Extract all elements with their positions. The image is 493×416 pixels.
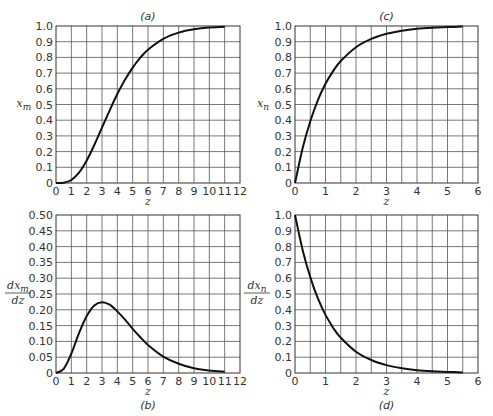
y-tick-label: 0.5 <box>36 99 54 112</box>
data-curve <box>56 302 225 373</box>
x-tick-label: 5 <box>129 375 136 388</box>
x-tick-label: 5 <box>444 185 451 198</box>
y-tick-label: 0.7 <box>36 67 54 80</box>
x-tick-label: 10 <box>202 375 216 388</box>
y-tick-label: 0.20 <box>29 304 54 317</box>
panel-title: (d) <box>379 399 395 412</box>
x-tick-label: 8 <box>175 375 182 388</box>
y-tick-label: 0.3 <box>275 130 293 143</box>
panel-c: 00.10.20.30.40.50.60.70.80.91.00123456z(… <box>257 10 482 208</box>
x-axis-label: z <box>383 195 390 208</box>
x-tick-label: 2 <box>83 375 90 388</box>
y-tick-label: 0.6 <box>36 83 54 96</box>
y-tick-label: 0.4 <box>275 114 293 127</box>
y-tick-label: 0.5 <box>275 288 293 301</box>
svg-text:dxm: dxm <box>7 279 29 294</box>
x-tick-label: 12 <box>233 375 247 388</box>
y-axis-label: dxmdz <box>5 279 31 307</box>
x-axis-label: z <box>144 195 151 208</box>
x-tick-label: 8 <box>175 185 182 198</box>
y-tick-labels: 00.050.100.150.200.250.300.350.400.450.5… <box>29 209 54 380</box>
y-tick-label: 0.3 <box>36 130 54 143</box>
x-tick-label: 1 <box>322 375 329 388</box>
x-tick-label: 2 <box>83 185 90 198</box>
y-tick-labels: 00.10.20.30.40.50.60.70.80.91.0 <box>275 209 293 380</box>
panel-a: 00.10.20.30.40.50.60.70.80.91.0012345678… <box>17 10 247 208</box>
svg-text:dxn: dxn <box>247 279 266 294</box>
x-tick-label: 6 <box>475 185 482 198</box>
y-tick-label: 0.50 <box>29 209 54 222</box>
figure: 00.10.20.30.40.50.60.70.80.91.0012345678… <box>0 0 493 416</box>
x-axis-label: z <box>383 385 390 398</box>
y-tick-labels: 00.10.20.30.40.50.60.70.80.91.0 <box>36 20 54 190</box>
grid <box>56 215 240 373</box>
x-tick-label: 3 <box>99 185 106 198</box>
y-tick-label: 0.9 <box>36 36 54 49</box>
y-tick-label: 0.8 <box>275 51 293 64</box>
x-tick-label: 12 <box>233 185 247 198</box>
x-tick-label: 3 <box>99 375 106 388</box>
panel-b: 00.050.100.150.200.250.300.350.400.450.5… <box>5 209 247 412</box>
y-axis-label: xm <box>17 97 32 112</box>
y-tick-label: 0.2 <box>36 146 54 159</box>
y-tick-label: 1.0 <box>275 209 293 222</box>
panel-title: (c) <box>379 10 394 23</box>
y-tick-label: 0.4 <box>36 114 54 127</box>
x-tick-label: 6 <box>475 375 482 388</box>
x-tick-label: 4 <box>114 375 121 388</box>
y-tick-label: 0.8 <box>36 51 54 64</box>
x-tick-label: 2 <box>353 375 360 388</box>
x-tick-label: 0 <box>53 375 60 388</box>
y-tick-label: 0.45 <box>29 225 54 238</box>
y-tick-label: 1.0 <box>275 20 293 33</box>
y-axis-label: dxndz <box>244 279 270 307</box>
y-tick-label: 0.4 <box>275 304 293 317</box>
y-tick-label: 0.35 <box>29 256 54 269</box>
y-tick-label: 0.9 <box>275 36 293 49</box>
y-tick-label: 0.10 <box>29 335 54 348</box>
panel-d: 00.10.20.30.40.50.60.70.80.91.00123456z(… <box>244 209 482 412</box>
y-tick-label: 0.2 <box>275 335 293 348</box>
x-tick-label: 0 <box>292 185 299 198</box>
y-tick-label: 0.30 <box>29 272 54 285</box>
x-tick-label: 11 <box>218 375 232 388</box>
svg-text:dz: dz <box>251 294 264 307</box>
svg-text:xn: xn <box>257 97 269 112</box>
x-tick-label: 11 <box>218 185 232 198</box>
y-tick-label: 0.9 <box>275 225 293 238</box>
x-tick-label: 1 <box>322 185 329 198</box>
x-tick-label: 5 <box>444 375 451 388</box>
y-tick-label: 0.1 <box>275 351 293 364</box>
x-tick-label: 7 <box>160 185 167 198</box>
y-tick-label: 0.15 <box>29 320 54 333</box>
x-tick-label: 1 <box>68 185 75 198</box>
y-tick-label: 0.7 <box>275 67 293 80</box>
y-tick-label: 0.1 <box>275 161 293 174</box>
y-tick-label: 0.05 <box>29 351 54 364</box>
grid <box>295 215 478 373</box>
svg-text:dz: dz <box>12 294 25 307</box>
y-tick-label: 0.3 <box>275 320 293 333</box>
x-tick-label: 9 <box>191 375 198 388</box>
y-tick-labels: 00.10.20.30.40.50.60.70.80.91.0 <box>275 20 293 190</box>
x-tick-label: 4 <box>414 185 421 198</box>
y-tick-label: 0.1 <box>36 161 54 174</box>
y-tick-label: 0.25 <box>29 288 54 301</box>
x-tick-label: 0 <box>53 185 60 198</box>
x-tick-label: 9 <box>191 185 198 198</box>
y-tick-label: 0.5 <box>275 99 293 112</box>
grid <box>295 26 478 183</box>
x-tick-label: 10 <box>202 185 216 198</box>
x-axis-label: z <box>144 385 151 398</box>
x-tick-label: 0 <box>292 375 299 388</box>
y-tick-label: 0.8 <box>275 241 293 254</box>
x-tick-label: 7 <box>160 375 167 388</box>
y-tick-label: 0.2 <box>275 146 293 159</box>
y-axis-label: xn <box>257 97 269 112</box>
y-tick-label: 0.6 <box>275 83 293 96</box>
panel-title: (a) <box>140 10 155 23</box>
y-tick-label: 0.6 <box>275 272 293 285</box>
panel-title: (b) <box>140 399 156 412</box>
y-tick-label: 0.40 <box>29 241 54 254</box>
y-tick-label: 0.7 <box>275 256 293 269</box>
